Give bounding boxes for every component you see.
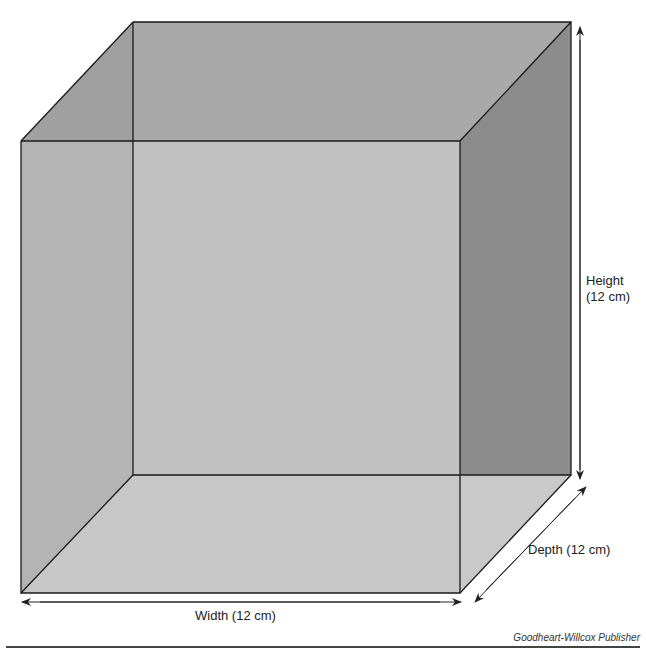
depth-label: Depth (12 cm): [528, 542, 610, 558]
publisher-credit: Goodheart-Willcox Publisher: [513, 632, 640, 643]
width-label: Width (12 cm): [195, 608, 276, 624]
height-label-line1: Height: [586, 273, 630, 289]
bottom-divider: [6, 646, 640, 648]
front-face: [21, 141, 460, 593]
height-label: Height (12 cm): [586, 273, 630, 305]
height-label-line2: (12 cm): [586, 289, 630, 305]
